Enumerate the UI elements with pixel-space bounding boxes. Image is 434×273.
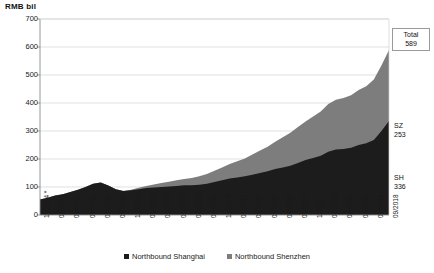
callout-shanghai: SH 336 bbox=[394, 174, 406, 191]
legend-swatch-icon bbox=[124, 254, 129, 259]
callout-shanghai-line2: 336 bbox=[394, 183, 406, 192]
x-axis-tick-label: 01/2018 bbox=[331, 195, 338, 219]
callout-shenzhen-line2: 253 bbox=[394, 131, 406, 140]
x-axis-tick-label: 09/2015 bbox=[119, 195, 126, 219]
x-axis-tick-label: 07/2017 bbox=[286, 195, 293, 219]
x-axis-tick-label: 09/2016 bbox=[210, 195, 217, 219]
callout-total-line2: 589 bbox=[396, 40, 426, 49]
callout-shanghai-line1: SH bbox=[394, 174, 406, 183]
x-axis-tick-label: 09/2018 bbox=[392, 195, 399, 219]
legend-item[interactable]: Northbound Shenzhen bbox=[227, 252, 310, 261]
x-axis-tick-label: 11/2017 bbox=[316, 195, 323, 218]
callout-shenzhen: SZ 253 bbox=[394, 122, 406, 139]
x-axis-tick-label: 11/2015 bbox=[134, 195, 141, 218]
legend-label: Northbound Shenzhen bbox=[235, 252, 310, 261]
x-axis-tick-label: 03/2016 bbox=[164, 195, 171, 219]
x-axis-tick-label: 01/2016 bbox=[149, 195, 156, 219]
x-axis-tick-label: 05/2017 bbox=[271, 195, 278, 219]
x-axis-tick-label: 05/2018 bbox=[362, 195, 369, 219]
x-axis-tick-label: 01/2017 bbox=[240, 195, 247, 219]
callout-shenzhen-line1: SZ bbox=[394, 122, 406, 131]
x-axis-tick-label: 03/2015 bbox=[73, 195, 80, 219]
chart-container: RMB bil 0100200300400500600700 11/2014 *… bbox=[0, 0, 434, 273]
x-axis-tick-label: 11/2014 * bbox=[43, 191, 50, 218]
legend-swatch-icon bbox=[227, 254, 232, 259]
callout-total: Total 589 bbox=[392, 28, 430, 51]
x-axis-tick-label: 03/2017 bbox=[255, 195, 262, 219]
x-axis-tick-label: 09/2017 bbox=[301, 195, 308, 219]
legend-item[interactable]: Northbound Shanghai bbox=[124, 252, 205, 261]
legend-label: Northbound Shanghai bbox=[132, 252, 205, 261]
callout-total-line1: Total bbox=[396, 31, 426, 40]
x-axis-labels: 11/2014 *01/201503/201505/201507/201509/… bbox=[0, 0, 434, 273]
x-axis-tick-label: 07/2015 bbox=[104, 195, 111, 219]
x-axis-tick-label: 05/2015 bbox=[89, 195, 96, 219]
x-axis-tick-label: 05/2016 bbox=[180, 195, 187, 219]
x-axis-tick-label: 07/2018 bbox=[377, 195, 384, 219]
x-axis-tick-label: 07/2016 bbox=[195, 195, 202, 219]
x-axis-tick-label: 01/2015 bbox=[58, 195, 65, 219]
x-axis-tick-label: 03/2018 bbox=[346, 195, 353, 219]
chart-legend: Northbound ShanghaiNorthbound Shenzhen bbox=[0, 252, 434, 261]
x-axis-tick-label: 11/2016 bbox=[225, 195, 232, 218]
